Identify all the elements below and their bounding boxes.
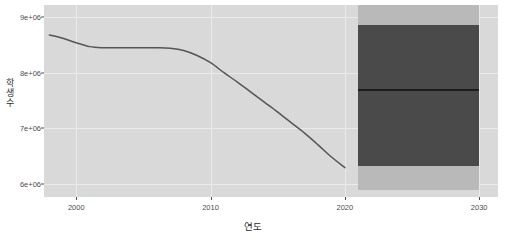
x-axis-title: 연도 <box>0 219 506 233</box>
y-axis-tick-label: 8e+06 <box>5 68 41 77</box>
x-axis-tick-label: 2030 <box>471 203 488 212</box>
x-axis-tick-mark <box>76 197 77 200</box>
x-axis-tick-mark <box>345 197 346 200</box>
y-axis-tick-label: 7e+06 <box>5 124 41 133</box>
x-axis-tick-label: 2010 <box>202 203 219 212</box>
y-axis-ticks: 6e+067e+068e+069e+06 <box>0 0 41 239</box>
x-axis-tick-label: 2020 <box>337 203 354 212</box>
y-axis-tick-label: 6e+06 <box>5 179 41 188</box>
y-axis-tick-label: 9e+06 <box>5 13 41 22</box>
chart-container: 학 생 수 6e+067e+068e+069e+06 2000201020202… <box>0 0 506 239</box>
x-axis-tick-mark <box>211 197 212 200</box>
x-axis-tick-label: 2000 <box>68 203 85 212</box>
series-line-chart <box>44 5 498 197</box>
student-count-line <box>49 35 345 168</box>
x-axis-tick-mark <box>479 197 480 200</box>
plot-panel <box>44 5 498 197</box>
